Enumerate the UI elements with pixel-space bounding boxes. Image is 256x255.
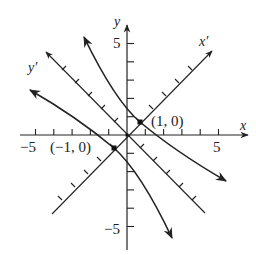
y-prime-label: y′ [26, 60, 38, 75]
y-prime-axis [46, 52, 205, 213]
origin-dot [126, 134, 129, 137]
x-prime-label: x′ [198, 34, 209, 49]
x-axis-label: x [239, 118, 247, 133]
point-label-1-0: (1, 0) [151, 113, 184, 130]
x-tick-label-neg5: −5 [20, 139, 36, 155]
point-neg1-0 [112, 146, 117, 151]
y-tick-label-5: 5 [113, 35, 121, 51]
y-axis-label: y [112, 14, 121, 29]
point-label-neg1-0: (−1, 0) [50, 139, 91, 156]
y-tick-label-neg5: −5 [104, 221, 120, 237]
x-tick-label-5: 5 [213, 139, 221, 155]
rotated-axes-hyperbola-diagram: y x x′ y′ 5 −5 5 −5 (1, 0) (−1, 0) [0, 0, 256, 255]
point-1-0 [138, 120, 143, 125]
